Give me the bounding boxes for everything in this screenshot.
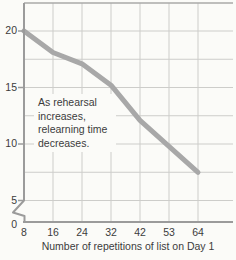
y-tick-label-5: 5 — [0, 194, 17, 206]
annotation-line: decreases. — [38, 137, 107, 151]
y-tick-label-10: 10 — [0, 137, 17, 149]
y-tick-label-15: 15 — [0, 81, 17, 93]
annotation-line: increases, — [38, 110, 107, 124]
chart-annotation: As rehearsalincreases,relearning timedec… — [38, 96, 107, 150]
annotation-line: As rehearsal — [38, 96, 107, 110]
annotation-line: relearning time — [38, 123, 107, 137]
x-tick-label-32: 32 — [99, 226, 123, 238]
x-axis-title: Number of repetitions of list on Day 1 — [20, 240, 236, 253]
x-tick-label-16: 16 — [41, 226, 65, 238]
y-tick-label-20: 20 — [0, 24, 17, 36]
line-chart-plot-area — [0, 0, 236, 260]
x-tick-label-24: 24 — [70, 226, 94, 238]
x-tick-label-64: 64 — [186, 226, 210, 238]
relearning-curve-chart: 20151050 8162432425364 As rehearsalincre… — [0, 0, 236, 260]
x-tick-label-53: 53 — [157, 226, 181, 238]
x-tick-label-8: 8 — [12, 226, 36, 238]
x-tick-label-42: 42 — [128, 226, 152, 238]
